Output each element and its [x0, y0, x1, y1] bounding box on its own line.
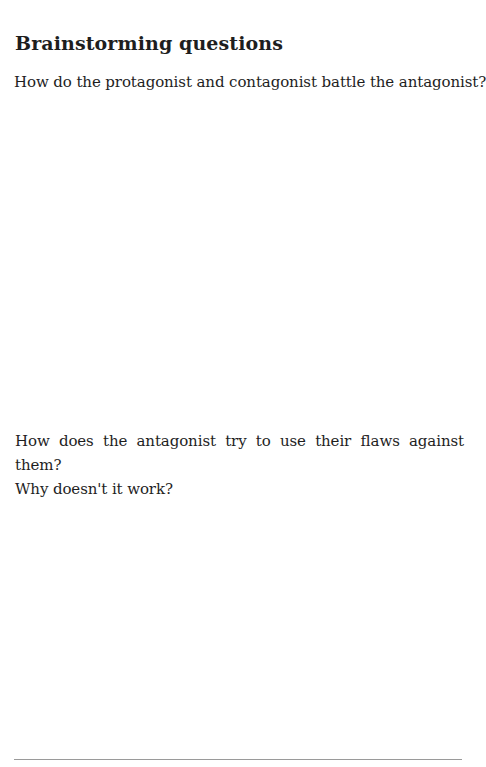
question-2: How does the antagonist try to use their… — [15, 429, 464, 501]
section-heading: Brainstorming questions — [15, 32, 283, 54]
question-2-line-2: Why doesn't it work? — [15, 477, 464, 501]
footer-divider — [14, 759, 462, 760]
question-1: How do the protagonist and contagonist b… — [14, 72, 486, 92]
question-2-line-1: How does the antagonist try to use their… — [15, 429, 464, 477]
